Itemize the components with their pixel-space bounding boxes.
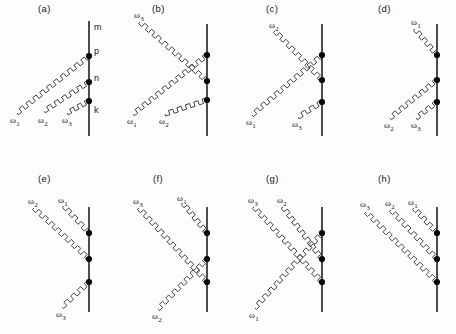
photon-line-d-3 (416, 100, 437, 120)
vertex-dot-d-2 (434, 77, 440, 83)
vertex-dot-f-3 (204, 279, 210, 285)
panel-a (17, 21, 92, 136)
vertex-dot-e-1 (86, 230, 92, 236)
omega-subscript: 1 (133, 121, 137, 129)
omega-subscript: 3 (68, 120, 72, 128)
omega-label-f-2: ω2 (152, 311, 162, 324)
omega-label-f-1: ω1 (177, 193, 187, 206)
omega-label-e-1: ω1 (58, 195, 68, 208)
omega-subscript: 1 (16, 120, 20, 128)
photon-line-c-3 (298, 100, 322, 119)
omega-subscript: 3 (140, 15, 144, 23)
vertex-dot-g-2 (319, 256, 325, 262)
omega-subscript: 2 (34, 201, 38, 209)
vertex-dot-c-1 (319, 52, 325, 58)
panel-g (252, 207, 325, 312)
vertex-dot-h-3 (434, 279, 440, 285)
vertex-dot-d-1 (434, 52, 440, 58)
vertex-dot-f-2 (204, 256, 210, 262)
panel-b (133, 22, 210, 136)
omega-subscript: 1 (255, 315, 259, 323)
state-label-a-n: n (94, 73, 99, 83)
panel-label-h: (h) (378, 173, 391, 184)
omega-subscript: 2 (158, 316, 162, 324)
panel-c (252, 24, 325, 136)
photon-line-d-2 (390, 78, 437, 119)
photon-line-g-2 (281, 207, 322, 260)
omega-label-a-3: ω3 (62, 115, 72, 128)
omega-label-a-1: ω1 (10, 115, 20, 128)
omega-subscript: 2 (283, 200, 287, 208)
omega-label-a-2: ω2 (38, 115, 48, 128)
vertex-dot-e-3 (86, 279, 92, 285)
photon-line-b-3 (139, 22, 209, 81)
omega-subscript: 3 (139, 201, 143, 209)
omega-label-g-1: ω1 (249, 310, 259, 323)
omega-label-h-3: ω3 (360, 199, 370, 212)
vertex-dot-b-1 (204, 52, 210, 58)
vertex-dot-a-1 (86, 53, 92, 59)
omega-label-h-1: ω1 (408, 197, 418, 210)
omega-label-c-2: ω2 (269, 20, 279, 33)
panel-e (33, 206, 93, 312)
photon-line-d-1 (413, 29, 438, 55)
panel-label-f: (f) (153, 173, 163, 184)
omega-subscript: 2 (275, 25, 279, 33)
feynman-diagram-figure: (a)ω1ω2ω3mpnk(b)ω3ω1ω2(c)ω2ω1ω3(d)ω1ω2ω3… (0, 0, 456, 334)
vertex-dot-d-3 (434, 99, 440, 105)
panel-f (137, 203, 210, 312)
panel-label-a: (a) (38, 3, 51, 14)
omega-label-g-3: ω3 (248, 195, 258, 208)
state-label-a-k: k (94, 105, 99, 115)
omega-label-e-2: ω2 (28, 196, 38, 209)
omega-label-c-1: ω1 (246, 117, 256, 130)
vertex-dot-e-2 (86, 256, 92, 262)
omega-subscript: 1 (417, 22, 421, 30)
panel-h (364, 207, 440, 312)
omega-subscript: 3 (417, 125, 421, 133)
panel-label-e: (e) (38, 173, 51, 184)
omega-label-d-2: ω2 (384, 120, 394, 133)
omega-subscript: 1 (252, 122, 256, 130)
omega-label-c-3: ω3 (292, 119, 302, 132)
omega-label-b-2: ω2 (159, 116, 169, 129)
omega-label-b-1: ω1 (127, 116, 137, 129)
panel-label-b: (b) (152, 3, 165, 14)
photon-line-h-3 (364, 212, 437, 284)
omega-subscript: 1 (414, 202, 418, 210)
omega-subscript: 3 (62, 314, 66, 322)
omega-subscript: 3 (366, 204, 370, 212)
vertex-dot-a-2 (86, 79, 92, 85)
vertex-dot-b-3 (204, 97, 210, 103)
vertex-dot-a-3 (86, 98, 92, 104)
omega-label-d-1: ω1 (411, 17, 421, 30)
panel-label-g: (g) (266, 173, 279, 184)
photon-line-f-2 (158, 257, 207, 310)
omega-subscript: 1 (64, 200, 68, 208)
vertex-dot-b-2 (204, 78, 210, 84)
vertex-dot-f-1 (204, 230, 210, 236)
panel-label-c: (c) (266, 3, 278, 14)
omega-subscript: 3 (298, 124, 302, 132)
omega-subscript: 2 (44, 120, 48, 128)
omega-subscript: 2 (391, 203, 395, 211)
omega-label-e-3: ω3 (56, 309, 66, 322)
photon-line-b-2 (165, 98, 207, 116)
omega-label-d-3: ω3 (411, 120, 421, 133)
omega-label-h-2: ω2 (385, 198, 395, 211)
state-label-a-m: m (94, 22, 102, 32)
photon-line-e-3 (62, 280, 89, 308)
vertex-dot-c-2 (319, 77, 325, 83)
omega-subscript: 2 (390, 125, 394, 133)
state-label-a-p: p (94, 46, 99, 56)
photon-line-e-1 (62, 206, 90, 233)
photon-line-c-1 (252, 55, 323, 117)
photon-line-f-1 (181, 203, 207, 234)
omega-subscript: 3 (254, 200, 258, 208)
photon-line-h-1 (412, 208, 438, 233)
vertex-dot-g-3 (319, 279, 325, 285)
photon-line-b-1 (133, 53, 207, 115)
diagram-canvas (0, 0, 456, 334)
vertex-dot-h-1 (434, 230, 440, 236)
photon-line-h-2 (389, 210, 437, 261)
